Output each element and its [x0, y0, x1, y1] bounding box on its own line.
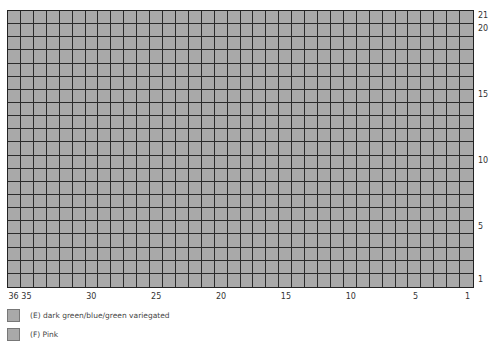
- chart-cell: [150, 116, 163, 129]
- chart-cell: [111, 129, 124, 142]
- chart-cell: [124, 24, 137, 37]
- chart-cell: [8, 208, 21, 221]
- chart-cell: [370, 208, 383, 221]
- chart-cell: [396, 261, 409, 274]
- chart-cell: [137, 103, 150, 116]
- chart-cell: [434, 142, 447, 155]
- chart-cell: [176, 50, 189, 63]
- chart-cell: [228, 261, 241, 274]
- chart-cell: [163, 156, 176, 169]
- chart-cell: [137, 77, 150, 90]
- chart-cell: [189, 103, 202, 116]
- chart-cell: [47, 129, 60, 142]
- chart-cell: [331, 195, 344, 208]
- chart-cell: [344, 77, 357, 90]
- chart-cell: [137, 169, 150, 182]
- chart-cell: [460, 90, 473, 103]
- chart-cell: [253, 156, 266, 169]
- chart-cell: [86, 11, 99, 24]
- chart-cell: [176, 248, 189, 261]
- chart-cell: [215, 248, 228, 261]
- chart-cell: [150, 234, 163, 247]
- chart-cell: [383, 182, 396, 195]
- chart-cell: [73, 116, 86, 129]
- chart-cell: [331, 90, 344, 103]
- chart-cell: [344, 142, 357, 155]
- chart-cell: [434, 248, 447, 261]
- chart-cell: [318, 116, 331, 129]
- chart-cell: [447, 274, 460, 287]
- chart-cell: [86, 64, 99, 77]
- chart-cell: [460, 261, 473, 274]
- chart-cell: [111, 50, 124, 63]
- column-label: 10: [346, 292, 356, 301]
- chart-cell: [383, 103, 396, 116]
- chart-cell: [421, 169, 434, 182]
- chart-cell: [305, 129, 318, 142]
- chart-cell: [34, 64, 47, 77]
- chart-cell: [8, 261, 21, 274]
- chart-cell: [73, 129, 86, 142]
- chart-cell: [73, 261, 86, 274]
- chart-cell: [215, 116, 228, 129]
- chart-cell: [137, 129, 150, 142]
- chart-cell: [370, 90, 383, 103]
- chart-cell: [421, 234, 434, 247]
- chart-cell: [8, 221, 21, 234]
- chart-cell: [60, 248, 73, 261]
- chart-cell: [124, 169, 137, 182]
- chart-cell: [215, 103, 228, 116]
- chart-cell: [98, 129, 111, 142]
- chart-cell: [21, 169, 34, 182]
- chart-cell: [331, 116, 344, 129]
- chart-cell: [421, 116, 434, 129]
- chart-cell: [344, 182, 357, 195]
- chart-cell: [305, 274, 318, 287]
- chart-cell: [421, 103, 434, 116]
- chart-cell: [408, 195, 421, 208]
- chart-cell: [21, 103, 34, 116]
- chart-cell: [137, 221, 150, 234]
- chart-cell: [357, 208, 370, 221]
- chart-cell: [421, 221, 434, 234]
- chart-cell: [253, 103, 266, 116]
- chart-cell: [434, 156, 447, 169]
- column-label: 25: [151, 292, 161, 301]
- chart-cell: [318, 208, 331, 221]
- chart-cell: [279, 129, 292, 142]
- chart-cell: [137, 274, 150, 287]
- chart-cell: [86, 90, 99, 103]
- chart-cell: [86, 103, 99, 116]
- chart-cell: [60, 90, 73, 103]
- chart-cell: [253, 234, 266, 247]
- chart-cell: [150, 77, 163, 90]
- chart-cell: [73, 11, 86, 24]
- chart-cell: [305, 221, 318, 234]
- chart-cell: [21, 182, 34, 195]
- chart-cell: [253, 169, 266, 182]
- chart-cell: [292, 116, 305, 129]
- chart-cell: [8, 129, 21, 142]
- chart-cell: [292, 142, 305, 155]
- chart-cell: [163, 142, 176, 155]
- chart-cell: [21, 208, 34, 221]
- chart-cell: [150, 103, 163, 116]
- chart-cell: [47, 274, 60, 287]
- chart-cell: [34, 169, 47, 182]
- chart-cell: [215, 24, 228, 37]
- chart-cell: [202, 234, 215, 247]
- chart-cell: [292, 77, 305, 90]
- chart-cell: [47, 169, 60, 182]
- chart-cell: [189, 234, 202, 247]
- chart-cell: [253, 116, 266, 129]
- chart-cell: [253, 50, 266, 63]
- chart-cell: [253, 37, 266, 50]
- chart-cell: [124, 221, 137, 234]
- chart-cell: [279, 234, 292, 247]
- chart-cell: [331, 103, 344, 116]
- chart-cell: [228, 50, 241, 63]
- chart-cell: [460, 11, 473, 24]
- chart-cell: [305, 77, 318, 90]
- chart-cell: [86, 116, 99, 129]
- chart-cell: [163, 169, 176, 182]
